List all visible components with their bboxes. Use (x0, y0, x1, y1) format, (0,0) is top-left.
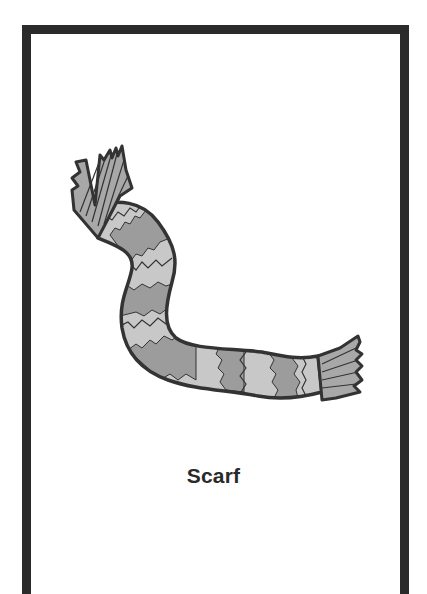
scarf-fringe-right (318, 336, 362, 400)
card-label: Scarf (0, 464, 427, 488)
